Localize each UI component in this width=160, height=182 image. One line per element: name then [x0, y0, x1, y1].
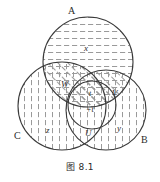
circle-label-c: C [14, 130, 21, 141]
figure-container: A C B x W V t +t U z y 图 8.1 [0, 0, 160, 182]
region-label-u: U [85, 128, 92, 138]
circle-label-a: A [68, 5, 76, 16]
region-label-y: y [116, 123, 121, 133]
circle-label-b: B [141, 134, 148, 145]
figure-caption: 图 8.1 [0, 160, 160, 173]
region-label-z: z [45, 125, 50, 135]
region-label-t-lower: +t [86, 105, 94, 114]
venn-diagram-svg: A C B x W V t +t U z y [0, 0, 160, 182]
region-label-x: x [83, 43, 88, 53]
